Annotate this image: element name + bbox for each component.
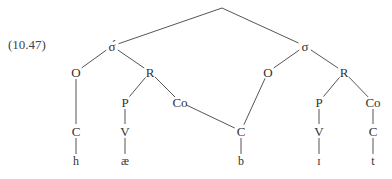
node-R2: R [340,65,349,80]
edge-Co1-Cshared [186,105,234,128]
tree-segments: hæbɪt [73,154,375,168]
node-O1: O [71,65,80,80]
edge-syl1-R1 [118,50,144,68]
edge-syl2-O2 [274,50,300,68]
segment-h: h [73,154,79,168]
node-C2: C [369,124,378,139]
segment-ae: æ [121,154,129,168]
edge-R1-P1 [129,77,145,96]
node-R1: R [146,65,155,80]
segment-t: t [371,154,375,168]
node-P2: P [315,95,322,110]
node-P1: P [121,95,128,110]
node-Cshared: C [237,124,246,139]
node-syl1: σ́ [108,39,115,54]
node-O2: O [263,65,272,80]
node-V1: V [120,124,130,139]
edge-R2-P2 [323,77,339,96]
node-V2: V [314,124,324,139]
segment-b: b [238,154,244,168]
node-Co2: Co [365,95,380,110]
syllable-tree-diagram: σ́σORPCoCVCORPCoVC hæbɪt [0,0,392,179]
node-Co1: Co [172,95,187,110]
edge-root-syl2 [222,8,299,43]
edge-O2-Cshared [244,78,265,124]
segment-I: ɪ [317,154,320,168]
edge-syl1-O1 [82,50,107,68]
node-C1: C [72,124,81,139]
node-syl2: σ [301,39,308,54]
edge-syl2-R2 [311,50,338,68]
edge-root-syl1 [119,8,222,44]
